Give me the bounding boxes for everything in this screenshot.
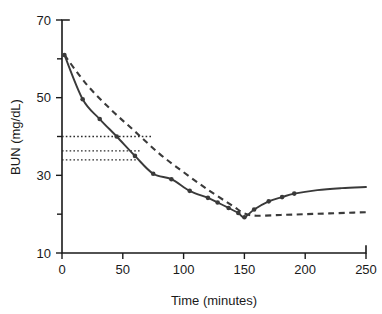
y-tick-label: 10 — [37, 246, 51, 261]
reference-lines-group — [62, 137, 152, 160]
data-point-marker — [169, 177, 174, 182]
x-axis-tick-labels: 050100150200250 — [58, 262, 376, 277]
data-point-marker — [236, 211, 241, 216]
data-point-marker — [280, 195, 285, 200]
data-point-marker — [80, 97, 85, 102]
data-point-marker — [226, 206, 231, 211]
series-measured-bun-with-rebound — [64, 55, 366, 217]
chart-svg: 10305070 050100150200250 Time (minutes) … — [0, 0, 382, 314]
data-point-marker — [62, 53, 67, 58]
data-point-marker — [215, 200, 220, 205]
data-point-marker — [266, 199, 271, 204]
data-point-marker — [187, 189, 192, 194]
bun-rebound-chart: 10305070 050100150200250 Time (minutes) … — [0, 0, 382, 314]
y-axis-title: BUN (mg/dL) — [8, 99, 23, 175]
x-tick-label: 150 — [234, 262, 256, 277]
y-axis-tick-labels: 10305070 — [37, 13, 51, 261]
data-point-marker — [97, 117, 102, 122]
data-point-marker — [133, 154, 138, 159]
x-tick-label: 200 — [294, 262, 316, 277]
data-point-marker — [206, 196, 211, 201]
series-single-pool-model-fit — [64, 55, 366, 216]
x-axis-tick-marks — [62, 253, 366, 259]
y-tick-label: 70 — [37, 13, 51, 28]
data-point-marker — [242, 215, 247, 220]
y-tick-label: 50 — [37, 90, 51, 105]
data-point-marker — [252, 207, 257, 212]
data-point-marker — [292, 191, 297, 196]
data-point-marker — [114, 134, 119, 139]
y-axis-tick-marks — [56, 20, 62, 253]
data-point-marker — [151, 171, 156, 176]
x-tick-label: 250 — [355, 262, 377, 277]
x-tick-label: 0 — [58, 262, 65, 277]
y-tick-label: 30 — [37, 168, 51, 183]
plot-area — [56, 20, 366, 259]
axis-lines — [62, 20, 366, 253]
x-tick-label: 50 — [116, 262, 130, 277]
x-axis-title: Time (minutes) — [171, 293, 257, 308]
x-tick-label: 100 — [173, 262, 195, 277]
